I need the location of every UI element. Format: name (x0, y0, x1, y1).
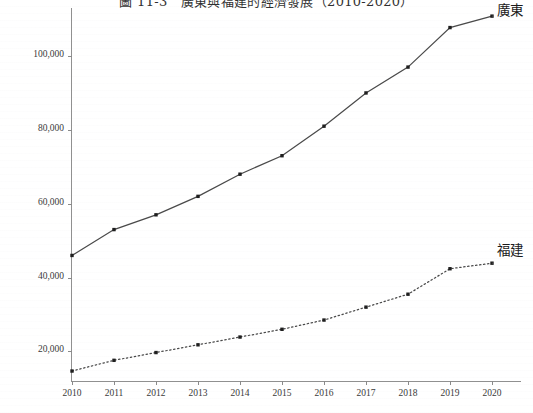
x-tick-mark (450, 381, 451, 385)
x-tick-label: 2010 (52, 388, 92, 398)
x-tick-mark (282, 381, 283, 385)
data-point-marker (364, 305, 367, 308)
y-tick-mark (68, 351, 72, 352)
data-point-marker (406, 293, 409, 296)
data-point-marker (112, 228, 115, 231)
data-point-marker (238, 172, 241, 175)
y-tick-label: 80,000 (0, 123, 64, 133)
x-tick-mark (366, 381, 367, 385)
chart-figure: 圖 11-3 廣東與福建的經濟發展（2010-2020） 20,00040,00… (0, 0, 533, 413)
data-point-marker (322, 318, 325, 321)
data-point-marker (196, 343, 199, 346)
x-tick-label: 2013 (178, 388, 218, 398)
x-tick-label: 2017 (346, 388, 386, 398)
data-point-marker (322, 124, 325, 127)
data-point-marker (280, 328, 283, 331)
y-tick-mark (68, 56, 72, 57)
data-point-marker (154, 351, 157, 354)
x-tick-label: 2012 (136, 388, 176, 398)
y-tick-mark (68, 204, 72, 205)
data-point-marker (112, 359, 115, 362)
x-tick-label: 2014 (220, 388, 260, 398)
x-tick-label: 2018 (388, 388, 428, 398)
y-tick-mark (68, 278, 72, 279)
x-tick-label: 2016 (304, 388, 344, 398)
data-point-marker (448, 26, 451, 29)
data-point-marker (364, 91, 367, 94)
x-tick-mark (324, 381, 325, 385)
chart-plot-lines (0, 0, 533, 413)
x-tick-mark (198, 381, 199, 385)
y-tick-label: 20,000 (0, 344, 64, 354)
series-label-fujian: 福建 (497, 239, 523, 259)
x-tick-label: 2011 (94, 388, 134, 398)
data-point-marker (196, 195, 199, 198)
series-markers-fujian (70, 261, 493, 372)
y-tick-mark (68, 130, 72, 131)
data-point-marker (448, 267, 451, 270)
scan-texture-overlay (0, 0, 533, 413)
x-tick-mark (408, 381, 409, 385)
data-point-marker (490, 261, 493, 264)
series-markers-guangdong (70, 14, 493, 257)
series-label-guangdong: 廣東 (497, 0, 523, 19)
x-tick-mark (240, 381, 241, 385)
series-line-fujian (72, 263, 492, 371)
data-point-marker (406, 65, 409, 68)
x-tick-label: 2019 (430, 388, 470, 398)
x-tick-mark (72, 381, 73, 385)
x-tick-mark (492, 381, 493, 385)
data-point-marker (280, 154, 283, 157)
x-axis-line (71, 381, 521, 382)
chart-title: 圖 11-3 廣東與福建的經濟發展（2010-2020） (0, 0, 533, 10)
series-line-guangdong (72, 16, 492, 255)
x-tick-mark (114, 381, 115, 385)
data-point-marker (238, 335, 241, 338)
x-tick-label: 2015 (262, 388, 302, 398)
data-point-marker (154, 213, 157, 216)
y-axis-line (71, 8, 72, 382)
data-point-marker (490, 14, 493, 17)
y-tick-label: 100,000 (0, 49, 64, 59)
y-tick-label: 40,000 (0, 271, 64, 281)
x-tick-mark (156, 381, 157, 385)
x-tick-label: 2020 (472, 388, 512, 398)
y-tick-label: 60,000 (0, 197, 64, 207)
